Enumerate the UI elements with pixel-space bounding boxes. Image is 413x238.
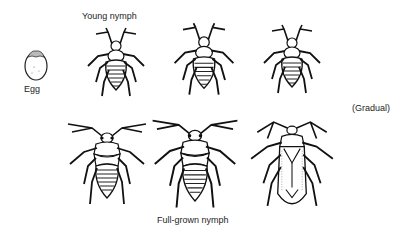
egg-label: Egg (24, 84, 40, 94)
egg-illustration (22, 45, 52, 83)
gradual-label: (Gradual) (352, 103, 390, 113)
full-grown-nymph-illustration (140, 114, 250, 214)
nymph-instar-2-illustration (162, 20, 246, 100)
full-grown-nymph-label: Full-grown nymph (157, 215, 229, 225)
young-nymph-illustration (76, 26, 156, 100)
nymph-instar-4-illustration (62, 118, 152, 210)
young-nymph-label: Young nymph (82, 11, 137, 21)
nymph-instar-3-illustration (252, 22, 332, 98)
adult-insect-illustration (244, 118, 340, 216)
